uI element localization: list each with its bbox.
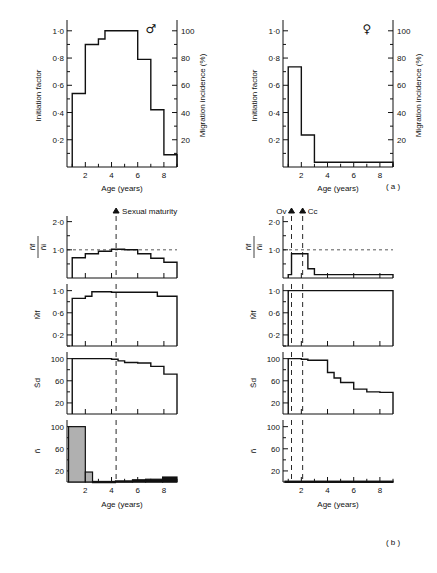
panel-b-right-sub2-y-ticklabel: 60 (271, 377, 280, 386)
panel-a-male-data-step (72, 31, 177, 167)
panel-a-female-sex-symbol: ♀ (363, 22, 372, 36)
panel-a-male-x-ticklabel: 4 (109, 171, 114, 180)
panel-a-female-y-ticklabel-right: 40 (397, 109, 406, 118)
panel-a-male-y-ticklabel-left: 0·8 (52, 54, 64, 63)
panel-a-female-y-ticklabel-right: 80 (397, 54, 406, 63)
panel-b-left-sub3-x-ticklabel: 8 (162, 486, 167, 495)
panel-b-right-sub3-x-ticklabel: 8 (378, 486, 383, 495)
panel-a-male-sex-symbol: ♂ (146, 22, 157, 36)
panel-b-left-sub1-y-ticklabel: 0·2 (52, 331, 64, 340)
panel-b-right-sub3-x-ticklabel: 4 (325, 486, 330, 495)
panel-b-left-sub3-y-label: ñ (33, 449, 42, 453)
panel-b-left-sub2-y-axis-label: S̄d (33, 378, 42, 388)
panel-b-left-sub2-data-step (72, 359, 177, 414)
panel-b-left-sub3-x-ticklabel: 6 (135, 486, 140, 495)
panel-b-left-sub3-x-ticklabel: 2 (83, 486, 88, 495)
panel-a-male-y-axis-label-right: Migration incidence (%) (198, 53, 207, 137)
panel-b-right-sub0-y-ticklabel: 1·0 (268, 246, 280, 255)
panel-b-left-sub3-y-ticklabel: 100 (51, 423, 65, 432)
panel-b-left-sub1-y-axis-label: M̄f (33, 310, 42, 320)
panel-b-left-sub3-y-ticklabel: 20 (55, 467, 64, 476)
panel-b-left-sub3-bar (163, 477, 177, 482)
panel-a-male-x-ticklabel: 2 (83, 171, 88, 180)
panel-a-female-y-ticklabel-left: 0·2 (268, 136, 280, 145)
panel-b-right-sub1-y-label: M̄f (249, 310, 258, 320)
marker-cc-label: Cc (308, 207, 318, 216)
panel-b-right-sub3-y-axis-label: ñ (249, 449, 258, 453)
panel-b-left-sub2-y-label: S̄d (33, 378, 42, 388)
panel-b-right-sub3-y-label: ñ (249, 449, 258, 453)
panel-a-male-y-ticklabel-right: 100 (181, 27, 195, 36)
panel-a-male-x-axis-label: Age (years) (101, 184, 143, 193)
panel-a-male-y-axis-label-left: Initiation factor (34, 69, 43, 121)
panel-a-female-y-ticklabel-left: 0·6 (268, 81, 280, 90)
panel-b-right-sub1-y-axis-label: M̄f (249, 310, 258, 320)
panel-b-left-sub3-bar (69, 427, 86, 482)
panel-b-right-sub1-y-ticklabel: 0·6 (268, 309, 280, 318)
panel-b-left-sub0-y-ticklabel: 1·0 (52, 246, 64, 255)
panel-b-right-sub3-y-ticklabel: 100 (267, 423, 281, 432)
panel-b-left-sub3-x-ticklabel: 4 (109, 486, 114, 495)
panel-b-right-sub1-y-ticklabel: 0·2 (268, 331, 280, 340)
panel-a-male-y-ticklabel-left: 0·4 (52, 109, 64, 118)
conception-arrow-icon (300, 208, 306, 213)
panel-b-left-sub3-bar (146, 479, 163, 482)
panel-b-left-sub0-y-ticklabel: 2·0 (52, 218, 64, 227)
panel-a-male-y-ticklabel-left: 0·2 (52, 136, 64, 145)
panel-a-male-y-ticklabel-left: 0·6 (52, 81, 64, 90)
panel-b-right-sub2-data-step (288, 359, 393, 414)
panel-a-male-y-ticklabel-right: 40 (181, 109, 190, 118)
figure-root: 0·20·40·60·81·0204060801002468Age (years… (0, 0, 437, 573)
panel-a-female-x-ticklabel: 2 (299, 171, 304, 180)
panel-b-left-sub1-y-ticklabel: 1·0 (52, 287, 64, 296)
ovulation-arrow-icon (289, 208, 295, 213)
panel-a-male-y-ticklabel-right: 60 (181, 81, 190, 90)
panel-a-female-x-ticklabel: 6 (351, 171, 356, 180)
panel-b-right-sub3-x-ticklabel: 2 (299, 486, 304, 495)
panel-b-left-sub0-y-label-numerator: ñf (28, 243, 37, 250)
panel-b-left-sub0-y-label-denominator: ñi (39, 244, 48, 250)
panel-b-left-sub3-bar (132, 480, 145, 482)
panel-b-left-sub0-y-axis-label: ñfñi (28, 236, 48, 258)
panel-b-right-sub0-data-step (288, 254, 393, 278)
panel-b-right-sub0-y-label-numerator: ñf (244, 243, 253, 250)
panel-b-right-sub3-y-ticklabel: 20 (271, 467, 280, 476)
panel-b-right-sub3-bar (285, 481, 393, 482)
panel-a-female-y-ticklabel-right: 20 (397, 136, 406, 145)
panel-b-right-sub3-x-ticklabel: 6 (351, 486, 356, 495)
panel-a-female-y-ticklabel-left: 0·4 (268, 109, 280, 118)
panel-b-right-sub1-y-ticklabel: 1·0 (268, 287, 280, 296)
panel-b-left-sub3-y-axis-label: ñ (33, 449, 42, 453)
panel-b-right-sub2-y-ticklabel: 20 (271, 399, 280, 408)
panel-b-left-x-axis-label: Age (years) (101, 500, 143, 509)
panel-b-right-x-axis-label: Age (years) (317, 500, 359, 509)
panel-a-male-y-ticklabel-left: 1·0 (52, 27, 64, 36)
panel-b-right-sub0-y-ticklabel: 2·0 (268, 218, 280, 227)
panel-a-female-y-axis-label-left: Initiation factor (250, 69, 259, 121)
panel-b-right-sub1-data-step (288, 291, 393, 346)
panel-b-right-sub2-y-ticklabel: 100 (267, 355, 281, 364)
panel-a-female-y-ticklabel-right: 100 (397, 27, 411, 36)
marker-ov-label: Ov (276, 207, 286, 216)
panel-a-female-x-ticklabel: 4 (325, 171, 330, 180)
panel-b-right-sub3-y-ticklabel: 60 (271, 445, 280, 454)
panel-b-left-sub0-data-step (72, 249, 177, 278)
sexual-maturity-label: Sexual maturity (122, 207, 177, 216)
panel-a-male-y-ticklabel-right: 20 (181, 136, 190, 145)
panel-a-tag: ( a ) (386, 182, 401, 191)
panel-a-male-x-ticklabel: 6 (135, 171, 140, 180)
panel-b-left-sub3-y-ticklabel: 60 (55, 445, 64, 454)
panel-b-right-sub2-y-label: S̄d (249, 378, 258, 388)
panel-b-left-sub3-bar (93, 481, 116, 482)
panel-b-right-sub0-y-label-denominator: ñi (255, 244, 264, 250)
panel-b-left-sub2-y-ticklabel: 20 (55, 399, 64, 408)
panel-b-left-sub3-bar (85, 472, 92, 482)
panel-a-female-x-axis-label: Age (years) (317, 184, 359, 193)
panel-b-left-sub2-y-ticklabel: 100 (51, 355, 65, 364)
panel-b-right-sub0-y-axis-label: ñfñi (244, 236, 264, 258)
sexual-maturity-arrow-icon (113, 208, 119, 213)
panel-a-male-y-ticklabel-right: 80 (181, 54, 190, 63)
panel-a-female-data-step (288, 67, 393, 167)
panel-a-female-y-ticklabel-right: 60 (397, 81, 406, 90)
panel-b-left-sub1-y-label: M̄f (33, 310, 42, 320)
